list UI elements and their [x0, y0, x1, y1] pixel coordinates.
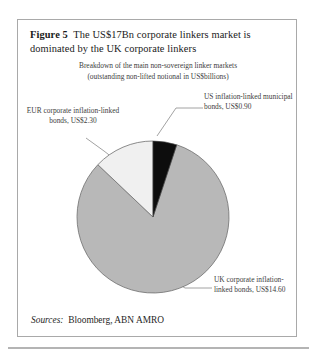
pie-label-uk: UK corporate inflation-linked bonds, US$…: [214, 275, 298, 294]
pie-label-eur: EUR corporate inflation-linked bonds, US…: [26, 106, 120, 125]
pie-label-us: US inflation-linked municipal bonds, US$…: [204, 92, 296, 111]
bottom-divider: [8, 347, 309, 349]
sources-label: Sources:: [31, 315, 63, 325]
sources-line: Sources: Bloomberg, ABN AMRO: [31, 315, 164, 325]
sources-value: Bloomberg, ABN AMRO: [68, 315, 164, 325]
figure-frame: Figure 5 The US$17Bn corporate linkers m…: [17, 19, 297, 337]
leader-line-us: [157, 108, 203, 136]
